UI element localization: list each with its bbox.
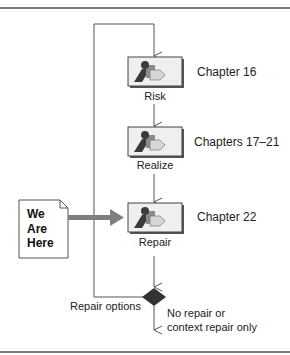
- chapter-label-repair: Chapter 22: [197, 211, 256, 224]
- note-line: We: [27, 207, 54, 222]
- exit-label-line2: context repair only: [167, 321, 257, 334]
- decision-diamond-icon: [142, 288, 166, 306]
- process-icon: [128, 57, 184, 88]
- step-label-risk: Risk: [125, 90, 185, 103]
- chapter-label-realize: Chapters 17–21: [194, 136, 279, 149]
- note-line: Are: [27, 222, 54, 237]
- process-icon: [128, 127, 184, 158]
- chapter-label-risk: Chapter 16: [197, 66, 256, 79]
- step-label-repair: Repair: [125, 236, 185, 249]
- process-icon: [128, 203, 184, 234]
- you-are-here-arrow: [68, 209, 124, 226]
- we-are-here-note: We Are Here: [27, 207, 54, 251]
- exit-label-line1: No repair or: [167, 307, 225, 320]
- note-line: Here: [27, 236, 54, 251]
- repair-options-label: Repair options: [70, 300, 141, 313]
- flow-diagram: [0, 0, 290, 355]
- step-label-realize: Realize: [125, 159, 185, 172]
